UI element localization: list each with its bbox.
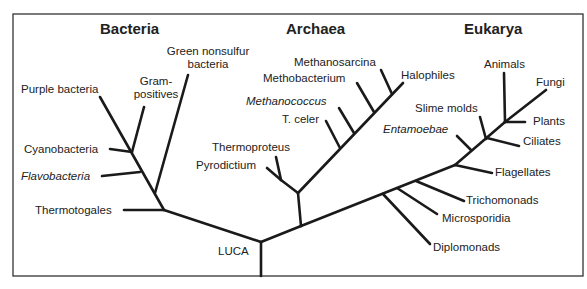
label-flavobacteria: Flavobacteria — [21, 170, 90, 183]
label-t-celer: T. celer — [282, 113, 319, 126]
label-slime-molds: Slime molds — [415, 102, 478, 115]
label-line: bacteria — [158, 58, 258, 71]
luca-label: LUCA — [218, 245, 249, 258]
label-pyrodictium: Pyrodictium — [196, 159, 256, 172]
domain-eukarya-heading: Eukarya — [464, 20, 522, 37]
label-animals: Animals — [484, 58, 525, 71]
label-entamoebae: Entamoebae — [383, 123, 448, 136]
label-line: positives — [126, 88, 186, 101]
domain-bacteria-heading: Bacteria — [100, 20, 159, 37]
label-thermoproteus: Thermoproteus — [212, 141, 290, 154]
label-cyanobacteria: Cyanobacteria — [24, 143, 98, 156]
label-microsporidia: Microsporidia — [442, 212, 510, 225]
label-green-nonsulfur: Green nonsulfur bacteria — [158, 45, 258, 71]
label-methanosarcina: Methanosarcina — [294, 56, 376, 69]
label-fungi: Fungi — [536, 76, 565, 89]
label-flagellates: Flagellates — [495, 166, 551, 179]
label-line: Gram- — [126, 75, 186, 88]
label-thermotogales: Thermotogales — [35, 204, 112, 217]
label-trichomonads: Trichomonads — [466, 194, 538, 207]
phylogenetic-tree: Bacteria Archaea Eukarya LUCA Green nons… — [0, 0, 587, 289]
label-gram-positives: Gram- positives — [126, 75, 186, 101]
label-line: Green nonsulfur — [158, 45, 258, 58]
domain-archaea-heading: Archaea — [286, 20, 345, 37]
label-purple-bacteria: Purple bacteria — [21, 83, 98, 96]
label-diplomonads: Diplomonads — [433, 241, 500, 254]
label-halophiles: Halophiles — [401, 69, 455, 82]
label-plants: Plants — [533, 115, 565, 128]
label-methanococcus: Methanococcus — [246, 95, 327, 108]
label-ciliates: Ciliates — [523, 135, 561, 148]
label-methobacterium: Methobacterium — [263, 72, 345, 85]
